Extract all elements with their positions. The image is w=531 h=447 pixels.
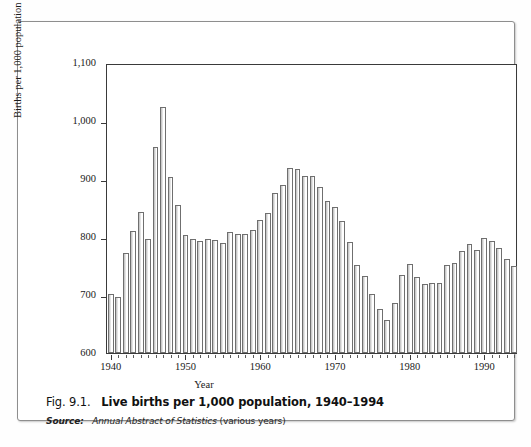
bar <box>489 241 495 353</box>
bar <box>205 239 211 353</box>
x-axis-title: Year <box>18 379 514 390</box>
bar <box>504 259 510 353</box>
x-tick-minor <box>492 355 493 358</box>
bar <box>108 294 114 353</box>
x-tick-minor <box>462 355 463 358</box>
bar <box>265 213 271 353</box>
x-tick-mark <box>335 355 336 360</box>
source-note: (various years) <box>220 416 286 426</box>
y-tick-mark <box>101 181 107 182</box>
caption-block: Fig. 9.1. Live births per 1,000 populati… <box>46 395 496 426</box>
bar <box>339 221 345 353</box>
bar <box>474 250 480 353</box>
x-tick-minor <box>126 355 127 358</box>
bar <box>467 244 473 353</box>
bar <box>175 205 181 353</box>
bar <box>257 220 263 353</box>
bar <box>280 185 286 353</box>
x-tick-minor <box>253 355 254 358</box>
bar <box>145 239 151 353</box>
y-tick-label: 1,100 <box>36 57 96 68</box>
bar <box>123 253 129 353</box>
bar <box>496 248 502 353</box>
bar <box>332 207 338 353</box>
x-tick-minor <box>447 355 448 358</box>
x-tick-minor <box>275 355 276 358</box>
bar <box>130 231 136 353</box>
x-tick-minor <box>477 355 478 358</box>
x-tick-minor <box>395 355 396 358</box>
bar <box>325 201 331 353</box>
x-axis-title-text: Year <box>194 379 213 390</box>
bar <box>452 263 458 353</box>
caption-figure-number: Fig. 9.1. <box>46 395 91 409</box>
y-tick-label: 1,000 <box>36 115 96 126</box>
x-tick-label: 1950 <box>175 361 196 372</box>
x-tick-minor <box>148 355 149 358</box>
bar <box>242 234 248 353</box>
bar <box>369 294 375 353</box>
bar <box>429 283 435 353</box>
y-tick-mark <box>101 123 107 124</box>
source-label: Source: <box>46 416 84 426</box>
bar <box>250 230 256 353</box>
y-tick-mark <box>101 239 107 240</box>
x-tick-label: 1980 <box>399 361 420 372</box>
x-tick-minor <box>380 355 381 358</box>
x-tick-minor <box>305 355 306 358</box>
x-tick-minor <box>156 355 157 358</box>
bar <box>377 309 383 353</box>
x-tick-minor <box>290 355 291 358</box>
caption-title: Live births per 1,000 population, 1940–1… <box>101 395 384 409</box>
plot-area: 194019501960197019801990 <box>106 64 517 354</box>
bar <box>407 264 413 353</box>
x-tick-minor <box>425 355 426 358</box>
bar <box>160 107 166 354</box>
y-tick-label: 900 <box>36 173 96 184</box>
caption-main: Fig. 9.1. Live births per 1,000 populati… <box>46 395 496 409</box>
x-tick-mark <box>410 355 411 360</box>
bar <box>220 243 226 353</box>
x-tick-minor <box>365 355 366 358</box>
bar <box>168 177 174 353</box>
bar <box>511 266 517 353</box>
bar-series <box>107 65 516 353</box>
x-tick-minor <box>193 355 194 358</box>
bar <box>197 241 203 353</box>
x-tick-minor <box>402 355 403 358</box>
x-tick-label: 1970 <box>324 361 345 372</box>
bar <box>444 265 450 353</box>
bar <box>153 147 159 353</box>
bar <box>212 240 218 353</box>
x-tick-minor <box>469 355 470 358</box>
bar <box>183 235 189 353</box>
x-tick-label: 1990 <box>474 361 495 372</box>
bar <box>295 169 301 353</box>
caption-source: Source: Annual Abstract of Statistics (v… <box>46 416 496 426</box>
x-tick-minor <box>454 355 455 358</box>
bar <box>115 297 121 353</box>
x-tick-minor <box>327 355 328 358</box>
x-tick-minor <box>499 355 500 358</box>
bar <box>362 276 368 353</box>
x-tick-minor <box>133 355 134 358</box>
bar <box>399 275 405 353</box>
bar <box>190 239 196 353</box>
figure-container: Births per 1,000 population 600700800900… <box>17 21 515 421</box>
bar <box>354 265 360 353</box>
bar <box>437 283 443 353</box>
x-tick-minor <box>357 355 358 358</box>
y-tick-label: 700 <box>36 289 96 300</box>
bar <box>287 168 293 353</box>
x-tick-minor <box>313 355 314 358</box>
bar <box>422 284 428 353</box>
x-tick-mark <box>260 355 261 360</box>
x-tick-minor <box>141 355 142 358</box>
x-tick-minor <box>223 355 224 358</box>
x-tick-minor <box>387 355 388 358</box>
bar <box>414 277 420 353</box>
x-tick-minor <box>268 355 269 358</box>
x-tick-minor <box>342 355 343 358</box>
bar <box>138 212 144 353</box>
bar <box>384 320 390 353</box>
